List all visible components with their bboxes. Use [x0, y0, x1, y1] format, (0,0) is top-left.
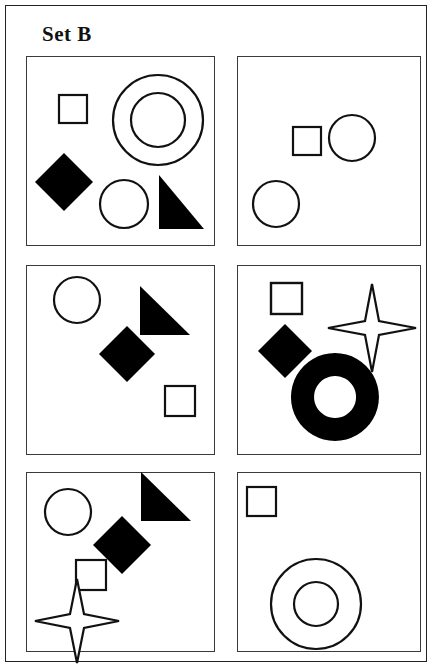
- circle-outline: [329, 115, 375, 161]
- donut-filled: [291, 353, 379, 441]
- panel-1-shapes: [27, 57, 216, 247]
- four-point-star-outline: [35, 579, 119, 663]
- circle-outline: [100, 180, 148, 228]
- shape-panel-top-right[interactable]: [237, 56, 421, 246]
- concentric-circles-inner: [131, 93, 185, 147]
- page-title: Set B: [42, 24, 92, 45]
- square-outline: [247, 487, 276, 516]
- worksheet-page: Set B: [0, 0, 439, 671]
- shape-panel-middle-left[interactable]: [26, 265, 215, 455]
- panel-4-shapes: [238, 266, 422, 456]
- concentric-circles-outer: [113, 75, 203, 165]
- right-triangle-filled: [140, 286, 190, 335]
- concentric-circles-inner: [294, 582, 338, 626]
- circle-outline: [253, 181, 299, 227]
- right-triangle-filled: [141, 472, 191, 521]
- square-outline: [76, 560, 106, 590]
- shape-panel-middle-right[interactable]: [237, 265, 421, 455]
- square-outline: [165, 386, 195, 416]
- square-outline: [293, 127, 321, 155]
- panel-5-shapes: [27, 473, 216, 653]
- shape-panel-top-left[interactable]: [26, 56, 215, 246]
- panel-6-shapes: [238, 473, 422, 653]
- circle-outline: [45, 489, 91, 535]
- square-outline: [271, 283, 302, 314]
- panel-2-shapes: [238, 57, 422, 247]
- panel-3-shapes: [27, 266, 216, 456]
- right-triangle-filled: [159, 175, 204, 229]
- concentric-circles-outer: [271, 559, 361, 649]
- outer-frame: Set B: [5, 5, 427, 662]
- circle-outline: [54, 277, 100, 323]
- square-outline: [59, 95, 87, 123]
- shape-panel-bottom-left[interactable]: [26, 472, 215, 652]
- shape-panel-bottom-right[interactable]: [237, 472, 421, 652]
- diamond-filled: [35, 153, 93, 211]
- diamond-filled: [93, 516, 151, 574]
